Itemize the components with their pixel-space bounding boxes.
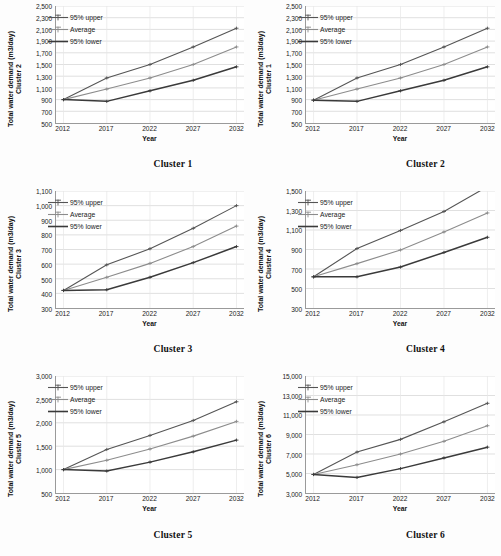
x-axis-tick-label: 2012 <box>55 310 70 317</box>
x-axis-tick-label: 2027 <box>436 310 451 317</box>
chart-panel: Total water demand (m3/day)Cluster 33004… <box>0 185 250 370</box>
y-axis-title-main: Total water demand (m3/day) <box>7 216 15 312</box>
x-axis-tick-label: 2027 <box>186 125 201 132</box>
y-axis-tick-label: 1,500 <box>36 443 52 450</box>
y-axis-tick-label: 400 <box>41 291 52 298</box>
y-axis-title: Total water demand (m3/day)Cluster 2 <box>4 4 26 154</box>
legend-item-upper[interactable]: 95% upper <box>298 197 353 208</box>
legend-line-marker-icon <box>298 37 318 46</box>
legend-item-upper[interactable]: 95% upper <box>48 12 103 23</box>
legend-item-average[interactable]: Average <box>48 394 103 405</box>
legend-item-lower[interactable]: 95% lower <box>48 36 103 47</box>
data-point-marker <box>105 276 109 279</box>
y-axis-tick-label: 7,000 <box>286 451 302 458</box>
legend-label: 95% upper <box>320 384 353 391</box>
data-point-marker <box>355 463 359 466</box>
chart-figure: Total water demand (m3/day)Cluster 15007… <box>252 4 499 154</box>
chart-legend: 95% upperAverage95% lower <box>48 12 103 48</box>
y-axis-cluster-label: Cluster 1 <box>265 64 273 94</box>
y-axis-tick-label: 1,500 <box>286 188 302 195</box>
x-axis-tick-label: 2032 <box>480 310 495 317</box>
x-axis-tick-label: 2017 <box>349 495 364 502</box>
legend-item-upper[interactable]: 95% upper <box>48 382 103 393</box>
data-point-marker <box>191 435 195 438</box>
x-axis-tick-label: 2027 <box>186 495 201 502</box>
legend-label: 95% lower <box>320 38 352 45</box>
legend-item-lower[interactable]: 95% lower <box>298 406 353 417</box>
y-axis-tick-label: 1,500 <box>36 62 52 69</box>
legend-label: 95% upper <box>320 199 353 206</box>
y-axis-tick-label: 1,700 <box>36 50 52 57</box>
legend-item-average[interactable]: Average <box>48 209 103 220</box>
x-axis-tick-label: 2012 <box>55 495 70 502</box>
data-point-marker <box>442 440 446 443</box>
data-point-marker <box>148 434 152 437</box>
legend-item-average[interactable]: Average <box>298 24 353 35</box>
y-axis-title: Total water demand (m3/day)Cluster 4 <box>254 189 276 339</box>
legend-label: 95% upper <box>70 384 103 391</box>
y-axis-cluster-label: Cluster 3 <box>15 249 23 279</box>
legend-item-upper[interactable]: 95% upper <box>298 382 353 393</box>
y-axis-tick-label: 900 <box>291 247 302 254</box>
x-axis-title: Year <box>305 135 495 142</box>
y-axis-tick-label: 300 <box>291 306 302 313</box>
legend-item-lower[interactable]: 95% lower <box>48 221 103 232</box>
y-axis-tick-label: 3,000 <box>286 491 302 498</box>
x-axis-tick-label: 2032 <box>229 495 244 502</box>
legend-line-marker-icon <box>298 25 318 34</box>
x-axis-tick-label: 2022 <box>142 125 157 132</box>
x-axis-tick-label: 2017 <box>99 310 114 317</box>
legend-label: 95% upper <box>70 14 103 21</box>
y-axis-tick-label: 700 <box>291 266 302 273</box>
legend-item-upper[interactable]: 95% upper <box>298 12 353 23</box>
x-axis-tick-label: 2032 <box>229 125 244 132</box>
chart-panel: Total water demand (m3/day)Cluster 15007… <box>250 0 501 185</box>
y-axis-tick-label: 900 <box>41 97 52 104</box>
legend-item-upper[interactable]: 95% upper <box>48 197 103 208</box>
x-axis-tick-label: 2012 <box>305 310 320 317</box>
y-axis-tick-label: 1,100 <box>36 85 52 92</box>
x-axis-tick-label: 2017 <box>99 495 114 502</box>
legend-line-marker-icon <box>298 222 318 231</box>
y-axis-title-main: Total water demand (m3/day) <box>7 401 15 497</box>
chart-legend: 95% upperAverage95% lower <box>48 197 103 233</box>
y-axis-tick-label: 2,000 <box>36 420 52 427</box>
legend-label: Average <box>70 396 95 403</box>
y-axis-title: Total water demand (m3/day)Cluster 3 <box>4 189 26 339</box>
chart-figure: Total water demand (m3/day)Cluster 63,00… <box>252 374 499 524</box>
y-axis-tick-label: 500 <box>41 121 52 128</box>
y-axis-tick-label: 2,500 <box>36 3 52 10</box>
legend-line-marker-icon <box>298 395 318 404</box>
x-axis-tick-label: 2032 <box>480 125 495 132</box>
legend-label: Average <box>320 211 345 218</box>
legend-label: 95% lower <box>320 408 352 415</box>
chart-figure: Total water demand (m3/day)Cluster 25007… <box>2 4 248 154</box>
chart-panel: Total water demand (m3/day)Cluster 63,00… <box>250 370 501 556</box>
legend-label: 95% upper <box>70 199 103 206</box>
legend-item-average[interactable]: Average <box>298 209 353 220</box>
y-axis-title: Total water demand (m3/day)Cluster 5 <box>4 374 26 524</box>
legend-line-marker-icon <box>48 210 68 219</box>
y-axis-tick-label: 1,500 <box>286 62 302 69</box>
chart-panel: Total water demand (m3/day)Cluster 43005… <box>250 185 501 370</box>
legend-line-marker-icon <box>48 383 68 392</box>
legend-line-marker-icon <box>298 407 318 416</box>
legend-item-lower[interactable]: 95% lower <box>48 406 103 417</box>
y-axis-tick-label: 1,700 <box>286 50 302 57</box>
data-point-marker <box>485 424 489 427</box>
legend-item-average[interactable]: Average <box>298 394 353 405</box>
y-axis-tick-label: 500 <box>291 121 302 128</box>
x-axis-tick-label: 2022 <box>393 495 408 502</box>
x-axis-tick-label: 2012 <box>55 125 70 132</box>
legend-item-lower[interactable]: 95% lower <box>298 221 353 232</box>
y-axis-title-main: Total water demand (m3/day) <box>257 216 265 312</box>
data-point-marker <box>398 452 402 455</box>
legend-item-average[interactable]: Average <box>48 24 103 35</box>
legend-label: 95% lower <box>70 38 102 45</box>
legend-item-lower[interactable]: 95% lower <box>298 36 353 47</box>
y-axis-tick-label: 500 <box>41 491 52 498</box>
x-axis-tick-label: 2022 <box>142 495 157 502</box>
x-axis-tick-label: 2017 <box>349 310 364 317</box>
x-axis-tick-label: 2017 <box>99 125 114 132</box>
data-point-marker <box>355 275 359 278</box>
